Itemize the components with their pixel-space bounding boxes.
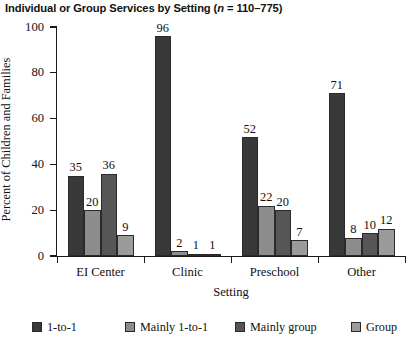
y-axis-title-wrap: Percent of Children and Families: [0, 40, 14, 240]
bar-value-label: 52: [236, 123, 265, 135]
legend-label: Mainly group: [250, 319, 317, 335]
x-category-label-ei-center: EI Center: [51, 266, 151, 279]
legend-item-1-to-1[interactable]: 1-to-1: [32, 319, 77, 335]
legend-swatch-icon: [32, 322, 42, 332]
legend-swatch-icon: [125, 322, 135, 332]
y-tick-label: 0: [2, 250, 44, 263]
bar-value-label: 12: [372, 214, 401, 226]
y-tick: [50, 164, 57, 165]
bar-value-label: 1: [198, 239, 227, 251]
plot-area: 35203699621152222077181012: [57, 27, 405, 256]
bar-other-mainly-1-to-1: [345, 238, 362, 256]
legend-item-group[interactable]: Group: [351, 319, 397, 335]
bar-ei-center-mainly-group: [101, 174, 118, 256]
bar-preschool-group: [291, 240, 308, 256]
chart-title: Individual or Group Services by Setting …: [5, 2, 414, 14]
bars-layer: 35203699621152222077181012: [57, 27, 405, 256]
legend-swatch-icon: [351, 322, 361, 332]
bar-value-label: 7: [285, 226, 314, 238]
bar-ei-center-group: [117, 235, 134, 256]
bar-other-group: [378, 229, 395, 256]
bar-value-label: 96: [149, 22, 178, 34]
y-tick: [50, 210, 57, 211]
x-tick: [318, 256, 319, 263]
x-category-label-clinic: Clinic: [138, 266, 238, 279]
bar-chart-figure: Individual or Group Services by Setting …: [0, 0, 419, 345]
x-axis-title: Setting: [57, 285, 405, 300]
legend-label: Group: [366, 319, 397, 335]
legend-label: 1-to-1: [47, 319, 77, 335]
chart-title-suffix: = 110–775): [224, 2, 282, 14]
bar-value-label: 71: [323, 79, 352, 91]
chart-title-prefix: Individual or Group Services by Setting …: [5, 2, 217, 14]
legend-item-mainly-1-to-1[interactable]: Mainly 1-to-1: [125, 319, 208, 335]
bar-ei-center-mainly-1-to-1: [84, 210, 101, 256]
bar-clinic-mainly-group: [188, 254, 205, 256]
x-category-label-other: Other: [312, 266, 412, 279]
x-tick: [405, 256, 406, 263]
x-tick: [57, 256, 58, 263]
legend-label: Mainly 1-to-1: [140, 319, 208, 335]
x-category-label-preschool: Preschool: [225, 266, 325, 279]
bar-clinic-mainly-1-to-1: [171, 251, 188, 256]
y-tick: [50, 255, 57, 256]
chart-legend: 1-to-1Mainly 1-to-1Mainly groupGroup: [32, 319, 412, 337]
y-axis-title: Percent of Children and Families: [0, 40, 14, 240]
x-tick: [144, 256, 145, 263]
x-tick: [231, 256, 232, 263]
bar-value-label: 20: [269, 196, 298, 208]
y-tick: [50, 72, 57, 73]
chart-title-italic-n: n: [217, 2, 224, 14]
bar-ei-center-1-to-1: [68, 176, 85, 256]
y-tick: [50, 26, 57, 27]
bar-clinic-1-to-1: [155, 36, 172, 256]
bar-other-mainly-group: [362, 233, 379, 256]
y-tick: [50, 118, 57, 119]
bar-value-label: 9: [111, 221, 140, 233]
bar-clinic-group: [204, 254, 221, 256]
y-tick-label: 100: [2, 21, 44, 34]
legend-item-mainly-group[interactable]: Mainly group: [235, 319, 317, 335]
legend-swatch-icon: [235, 322, 245, 332]
bar-preschool-mainly-1-to-1: [258, 206, 275, 256]
bar-value-label: 36: [95, 159, 124, 171]
bar-value-label: 35: [62, 161, 91, 173]
